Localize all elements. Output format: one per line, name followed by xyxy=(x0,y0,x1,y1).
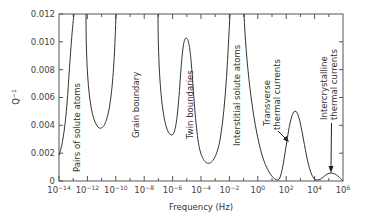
annotation-arrows xyxy=(278,123,334,173)
internal-friction-chart: 0 0.002 0.004 0.006 0.008 0.010 0.012 xyxy=(0,0,366,224)
x-tick-labels: 10−14 10−12 10−10 10−8 10−6 10−4 10−2 10… xyxy=(47,184,350,196)
y-tick-label: 0.006 xyxy=(31,92,55,102)
x-tick-label: 10−14 xyxy=(47,184,71,196)
x-tick-label: 10−4 xyxy=(191,184,211,196)
label-grain-boundary: Grain boundary xyxy=(131,72,141,138)
label-transverse-line1: Transverse xyxy=(262,80,272,127)
y-tick-label: 0.008 xyxy=(31,65,55,75)
x-tick-label: 10−6 xyxy=(163,184,183,196)
x-tick-label: 10−2 xyxy=(220,184,240,196)
annotations: Pairs of solute atoms Grain boundary Twi… xyxy=(72,44,339,172)
label-intercrystalline-line1: Intercrystalline xyxy=(319,56,329,120)
y-tick-label: 0.012 xyxy=(31,9,55,19)
x-tick-label: 100 xyxy=(250,184,265,196)
x-tick-label: 102 xyxy=(279,184,294,196)
x-tick-label: 10−12 xyxy=(76,184,100,196)
label-intercrystalline-line2: thermal currents xyxy=(329,48,339,120)
arrow-intercrystalline xyxy=(331,123,332,168)
label-transverse-line2: thermal currents xyxy=(272,58,282,130)
x-tick-label: 10−8 xyxy=(134,184,154,196)
y-tick-label: 0.010 xyxy=(31,37,55,47)
y-axis-title: Q−1 xyxy=(10,89,21,105)
y-ticks xyxy=(59,14,343,181)
y-tick-label: 0.004 xyxy=(31,120,55,130)
x-tick-label: 104 xyxy=(307,184,322,196)
y-tick-labels: 0 0.002 0.004 0.006 0.008 0.010 0.012 xyxy=(31,9,55,186)
label-interstitial-solute-atoms: Interstitial solute atoms xyxy=(232,44,242,146)
x-tick-label: 10−10 xyxy=(104,184,128,196)
spectrum-curves xyxy=(59,14,343,181)
label-pairs-of-solute-atoms: Pairs of solute atoms xyxy=(72,83,82,172)
arrowhead-intercrystalline-icon xyxy=(329,166,334,173)
y-tick-label: 0.002 xyxy=(31,148,55,158)
x-tick-label: 106 xyxy=(336,184,351,196)
x-axis-title: Frequency (Hz) xyxy=(169,202,233,212)
curve-pairs-grain xyxy=(86,14,116,128)
plot-frame xyxy=(59,14,343,181)
label-twin-boundaries: Twin boundaries xyxy=(185,70,195,140)
